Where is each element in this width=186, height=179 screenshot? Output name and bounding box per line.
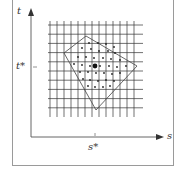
y-axis-arrow-icon <box>28 8 34 16</box>
sample-point <box>111 73 113 75</box>
sample-point <box>82 78 84 80</box>
sample-point <box>90 48 92 50</box>
sample-point <box>94 86 96 88</box>
sample-point <box>99 65 101 67</box>
sample-point <box>110 58 112 60</box>
sample-points <box>73 42 127 88</box>
sample-point <box>97 42 99 44</box>
x-axis-label: s <box>167 131 172 141</box>
sample-point <box>113 46 115 48</box>
sample-point <box>119 59 121 61</box>
sample-point <box>97 80 99 82</box>
sample-point <box>81 64 83 66</box>
sample-point <box>119 72 121 74</box>
sample-point <box>89 79 91 81</box>
sample-point <box>93 57 95 59</box>
sample-point <box>108 65 110 67</box>
sample-point <box>103 72 105 74</box>
sample-point <box>105 79 107 81</box>
sample-point <box>102 86 104 88</box>
sample-point <box>95 72 97 74</box>
sample-point <box>85 56 87 58</box>
sample-point <box>89 65 91 67</box>
center-point <box>93 64 98 69</box>
x-tick-label: s* <box>88 142 98 152</box>
sample-point <box>113 80 115 82</box>
sample-point <box>125 65 127 67</box>
sample-point <box>79 71 81 73</box>
sampling-grid <box>48 21 143 117</box>
sample-point <box>116 66 118 68</box>
sampling-grid-diagram <box>0 0 186 179</box>
sample-point <box>98 50 100 52</box>
y-tick-label: t* <box>16 61 25 71</box>
sample-point <box>107 50 109 52</box>
y-axis-label: t <box>17 6 21 16</box>
sample-point <box>77 56 79 58</box>
sample-point <box>114 52 116 54</box>
sample-point <box>102 57 104 59</box>
sample-point <box>81 47 83 49</box>
sample-point <box>87 85 89 87</box>
sample-point <box>109 85 111 87</box>
sample-point <box>105 43 107 45</box>
x-axis-arrow-icon <box>156 134 164 140</box>
sample-point <box>87 71 89 73</box>
sample-point <box>73 63 75 65</box>
sample-point <box>88 42 90 44</box>
